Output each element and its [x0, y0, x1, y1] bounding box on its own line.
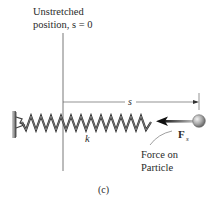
figure-caption: (c) — [98, 184, 109, 196]
wall-plate — [12, 111, 16, 138]
reference-label-line1: Unstretched — [33, 6, 84, 17]
force-arrow-shaft — [165, 120, 193, 123]
spring-particle-diagram: Unstretched position, s = 0 s k F s Forc… — [0, 0, 218, 199]
spring-force-arrow — [156, 117, 193, 127]
particle-ball-icon — [193, 115, 206, 128]
force-subscript: s — [186, 135, 189, 143]
displacement-label: s — [128, 96, 132, 107]
dimension-arrowhead-icon — [193, 100, 199, 104]
spring-constant-label: k — [85, 133, 90, 144]
force-label: F s — [178, 128, 189, 143]
leader-line — [150, 131, 172, 145]
force-symbol: F — [178, 128, 185, 140]
displacement-dimension: s — [63, 93, 199, 110]
reference-position-label: Unstretched position, s = 0 — [33, 6, 93, 30]
reference-label-line2: position, s = 0 — [33, 19, 93, 30]
force-note: Force on Particle — [141, 149, 179, 173]
force-note-line2: Particle — [141, 162, 173, 173]
force-note-line1: Force on — [141, 149, 179, 160]
